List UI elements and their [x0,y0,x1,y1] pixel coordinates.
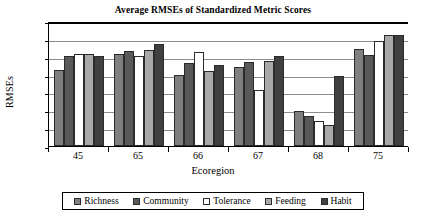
bar-habit-67 [274,56,284,146]
x-axis-separator [408,147,409,152]
legend-item-feeding[interactable]: Feeding [265,196,306,207]
x-tick-label-66: 66 [173,150,223,162]
bar-feeding-45 [84,54,94,147]
bar-community-45 [64,56,74,146]
legend-swatch-icon [321,198,328,205]
legend-swatch-icon [74,198,81,205]
bar-community-75 [364,55,374,146]
x-axis-separator [288,147,289,152]
bar-group [229,23,289,146]
bar-habit-66 [214,65,224,146]
chart-legend: RichnessCommunityToleranceFeedingHabit [62,192,364,210]
bar-tolerance-65 [134,56,144,146]
x-tick-label-68: 68 [293,150,343,162]
x-axis-label: Ecoregion [0,165,426,177]
bar-group [109,23,169,146]
legend-item-richness[interactable]: Richness [74,196,118,207]
x-tick-label-67: 67 [233,150,283,162]
legend-label: Tolerance [213,196,250,207]
bar-community-66 [184,63,194,146]
bar-tolerance-68 [314,121,324,146]
legend-label: Community [143,196,188,207]
bar-feeding-68 [324,125,334,146]
legend-label: Richness [84,196,118,207]
bar-richness-45 [54,70,64,146]
bar-habit-65 [154,44,164,146]
legend-item-habit[interactable]: Habit [321,196,352,207]
bar-feeding-67 [264,61,274,146]
bar-group [349,23,409,146]
bar-tolerance-67 [254,90,264,146]
bar-group [289,23,349,146]
bar-chart: Average RMSEs of Standardized Metric Sco… [0,0,426,222]
bar-habit-75 [394,35,404,146]
x-axis-separator [48,147,49,152]
plot-area: 05101520253035 [48,22,408,147]
bar-community-68 [304,116,314,146]
x-tick-label-65: 65 [113,150,163,162]
bar-richness-65 [114,54,124,147]
legend-swatch-icon [265,198,272,205]
bar-richness-67 [234,67,244,146]
bar-feeding-65 [144,50,154,146]
legend-item-tolerance[interactable]: Tolerance [203,196,250,207]
y-axis-label: RMSEs [4,62,18,122]
bar-habit-45 [94,56,104,146]
x-axis-separator [168,147,169,152]
bar-feeding-75 [384,35,394,146]
x-axis-separator [228,147,229,152]
chart-title: Average RMSEs of Standardized Metric Sco… [0,4,426,16]
bar-group [49,23,109,146]
bar-community-65 [124,51,134,146]
bar-group [169,23,229,146]
bar-feeding-66 [204,71,214,146]
bar-habit-68 [334,76,344,146]
x-axis-separator [108,147,109,152]
x-axis-separator [348,147,349,152]
legend-swatch-icon [133,198,140,205]
bar-richness-68 [294,111,304,146]
legend-item-community[interactable]: Community [133,196,188,207]
bar-tolerance-66 [194,52,204,146]
bar-tolerance-75 [374,41,384,146]
bar-tolerance-45 [74,54,84,147]
bar-community-67 [244,62,254,146]
plot-inner: 05101520253035 [49,23,408,146]
bar-richness-75 [354,49,364,146]
legend-label: Habit [331,196,352,207]
x-tick-label-75: 75 [353,150,403,162]
legend-swatch-icon [203,198,210,205]
x-tick-label-45: 45 [53,150,103,162]
bar-richness-66 [174,75,184,146]
legend-label: Feeding [275,196,306,207]
